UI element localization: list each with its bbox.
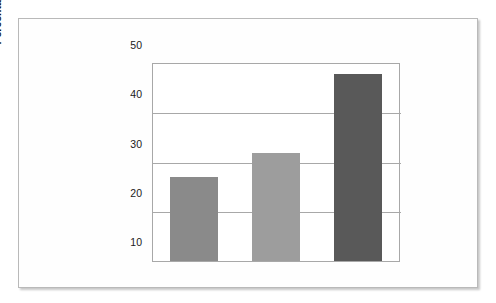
plot-area: No noise Noise, perceived control Noise,… — [152, 63, 400, 262]
y-axis-title: Percentage of errors in problem solving — [0, 0, 3, 55]
y-tick-label-50: 50 — [116, 40, 142, 50]
chart-card-frame: Percentage of errors in problem solving … — [18, 18, 478, 288]
figure-container: Percentage of errors in problem solving … — [0, 0, 496, 303]
bar-noise-perceived-control — [252, 153, 300, 261]
bar-noise-no-perceived-control — [334, 74, 382, 261]
y-tick-label-40: 40 — [116, 89, 142, 99]
y-tick-label-10: 10 — [116, 237, 142, 247]
bar-no-noise — [170, 177, 218, 261]
y-tick-label-30: 30 — [116, 139, 142, 149]
y-tick-label-20: 20 — [116, 188, 142, 198]
